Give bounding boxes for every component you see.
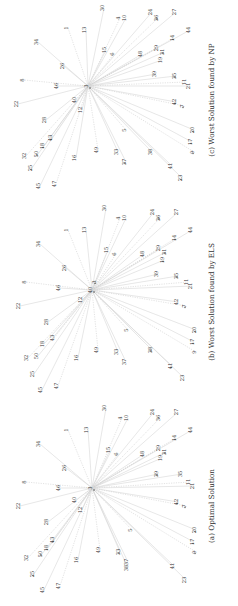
node-label: 46 — [53, 83, 59, 90]
node-label: 44 — [187, 426, 193, 433]
node-label: 6 — [109, 52, 115, 55]
edge — [26, 86, 88, 156]
edge — [92, 290, 196, 330]
panel-a: 3134268462240122843185032254547163849333… — [15, 405, 216, 594]
node-label: 6 — [113, 452, 119, 455]
node-label: 34 — [35, 240, 41, 247]
node-label: 50 — [37, 551, 43, 558]
node-label: 35 — [177, 471, 183, 478]
node-label: 38 — [147, 149, 153, 156]
edge — [88, 86, 192, 142]
node-label: 31 — [161, 449, 167, 456]
node-label: 16 — [71, 155, 77, 162]
node-label: 18 — [39, 143, 45, 150]
node-label: 41 — [169, 563, 175, 570]
node-label: 27 — [173, 409, 179, 416]
node-label: 12 — [77, 107, 83, 114]
node-label: 26 — [61, 465, 67, 472]
node-label: 7 — [179, 104, 185, 107]
hub-node-dot — [93, 291, 95, 293]
node-label: 46 — [55, 485, 61, 492]
node-label: 38 — [147, 347, 153, 354]
edge — [28, 488, 92, 558]
node-label: 39 — [153, 271, 159, 278]
node-label: 39 — [153, 471, 159, 478]
hub-node-label: 3 — [87, 486, 93, 489]
node-label: 27 — [173, 209, 179, 216]
node-label: 45 — [35, 183, 41, 190]
node-label: 45 — [37, 387, 43, 394]
edge — [92, 254, 144, 290]
node-label: 46 — [55, 285, 61, 292]
hub-node-label: 3 — [83, 84, 89, 87]
node-label: 15 — [101, 47, 107, 54]
node-label: 14 — [169, 34, 175, 41]
node-label: 15 — [103, 247, 109, 254]
node-label: 48 — [139, 451, 145, 458]
node-label: 42 — [173, 499, 179, 506]
graph-canvas: 3134268462240122843185032254547163849333… — [0, 0, 238, 606]
node-label: 43 — [47, 135, 53, 142]
node-label: 8 — [21, 280, 27, 283]
node-label: 32 — [23, 555, 29, 562]
node-label: 1 — [63, 26, 69, 29]
node-label: 5 — [127, 528, 133, 531]
node-label: 10 — [123, 415, 129, 422]
node-label: 29 — [155, 245, 161, 252]
edge — [88, 430, 92, 488]
node-label: 36 — [153, 15, 159, 22]
node-label: 49 — [95, 547, 101, 554]
node-label: 13 — [83, 427, 89, 434]
edge — [88, 86, 118, 152]
node-label: 18 — [39, 341, 45, 348]
hub-node-dot — [89, 87, 91, 89]
node-label: 48 — [137, 51, 143, 58]
node-label: 24 — [147, 8, 153, 15]
node-label: 21 — [187, 283, 193, 290]
node-label: 44 — [187, 226, 193, 233]
node-label: 37 — [123, 559, 129, 566]
node-label: 1 — [63, 428, 69, 431]
node-label: 16 — [73, 355, 79, 362]
node-label: 40 — [71, 497, 77, 504]
node-label: 17 — [189, 539, 195, 546]
node-label: 50 — [33, 353, 39, 360]
node-label: 9 — [189, 150, 195, 153]
edge — [58, 290, 92, 386]
node-label: 3 — [91, 280, 97, 283]
node-label: 32 — [23, 355, 29, 362]
node-label: 34 — [33, 38, 39, 45]
hub-node-label: 40 — [87, 287, 93, 294]
edge — [92, 452, 166, 488]
node-label: 36 — [155, 215, 161, 222]
panel-b: 4013426846223122843185032254547163849333… — [15, 205, 216, 394]
edge — [92, 290, 196, 352]
node-label: 28 — [43, 319, 49, 326]
edge — [92, 290, 118, 352]
edge — [88, 82, 186, 86]
node-label: 18 — [43, 545, 49, 552]
edge — [92, 458, 162, 488]
node-label: 45 — [39, 587, 45, 594]
node-label: 24 — [149, 408, 155, 415]
node-label: 21 — [189, 483, 195, 490]
node-label: 20 — [191, 327, 197, 334]
node-label: 13 — [81, 27, 87, 34]
edge — [92, 290, 98, 350]
edge — [92, 290, 128, 330]
node-label: 30 — [101, 405, 107, 412]
node-label: 40 — [71, 97, 77, 104]
node-label: 6 — [111, 252, 117, 255]
node-label: 17 — [189, 339, 195, 346]
node-label: 28 — [41, 117, 47, 124]
panel-caption: (a) Optimal Solution — [207, 469, 216, 543]
node-label: 7 — [181, 504, 187, 507]
node-label: 26 — [59, 63, 65, 70]
node-label: 37 — [121, 359, 127, 366]
edge — [68, 230, 92, 290]
node-label: 8 — [21, 480, 27, 483]
node-label: 17 — [187, 139, 193, 146]
panel-caption: (c) Worst Solution found by NP — [207, 43, 216, 156]
node-label: 49 — [93, 347, 99, 354]
node-label: 19 — [159, 257, 165, 264]
